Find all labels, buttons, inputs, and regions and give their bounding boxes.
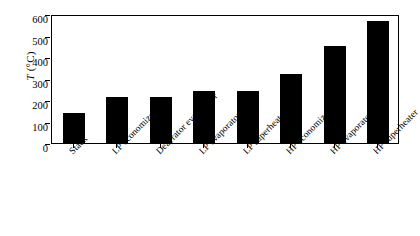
y-axis-tick-mark [45,37,50,38]
y-axis-tick-mark [45,123,50,124]
x-axis-tick-mark [290,144,291,148]
y-axis-tick-label: 0 [16,144,48,154]
y-axis-tick-mark [45,144,50,145]
y-axis-tick-mark [45,80,50,81]
x-axis-tick-mark [116,144,117,148]
y-axis-tick-label: 100 [16,123,48,133]
x-axis-tick-mark [334,144,335,148]
bar [367,21,389,143]
y-axis-tick-mark [45,15,50,16]
bar [324,46,346,143]
x-axis-tick-mark [73,144,74,148]
y-axis-tick-label: 500 [16,37,48,47]
y-axis-tick-label: 200 [16,101,48,111]
bar [106,97,128,143]
y-axis-tick-label: 300 [16,80,48,90]
plot-area [52,16,398,143]
x-axis-tick-mark [160,144,161,148]
x-axis-tick-mark [203,144,204,148]
bar [193,91,215,143]
x-axis-tick-mark [377,144,378,148]
y-axis-tick-labels: 0100200300400500600 [16,15,48,155]
plot-frame [51,15,399,144]
bar [280,74,302,143]
y-axis-tick-label: 600 [16,15,48,25]
x-axis-tick-mark [247,144,248,148]
y-axis-tick-label: 400 [16,58,48,68]
bar [63,113,85,143]
bar [237,91,259,143]
y-axis-tick-mark [45,58,50,59]
bar [150,97,172,143]
y-axis-tick-mark [45,101,50,102]
